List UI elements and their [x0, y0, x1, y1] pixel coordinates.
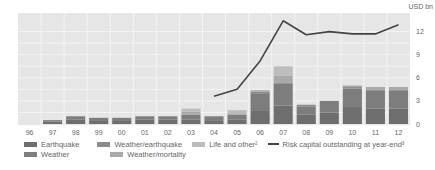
x-tick-label: 00 [118, 129, 126, 136]
bar-segment [274, 83, 293, 105]
bar-segment [274, 66, 293, 75]
x-tick-label: 06 [256, 129, 264, 136]
swatch-icon [24, 142, 37, 147]
bar-segment [135, 119, 154, 124]
legend-weather-mortality: Weather/mortality [110, 150, 186, 159]
y-tick-label: 3 [416, 97, 420, 104]
bar-segment [66, 116, 85, 119]
swatch-icon [192, 142, 205, 147]
bar-segment [389, 87, 408, 89]
x-tick-label: 02 [164, 129, 172, 136]
x-tick-label: 98 [72, 129, 80, 136]
x-tick-label: 12 [395, 129, 403, 136]
bar-segment [320, 101, 339, 113]
unit-label: USD bn [408, 3, 433, 10]
bar-segment [251, 92, 270, 94]
bar-segment [228, 119, 247, 124]
legend-weather-earthquake: Weather/earthquake [97, 140, 182, 149]
bar-segment [112, 118, 131, 120]
x-tick-label: 05 [233, 129, 241, 136]
bar-segment [181, 115, 200, 120]
bar-segment [89, 120, 108, 124]
y-tick-label: 6 [416, 74, 420, 81]
bar-segment [251, 90, 270, 92]
bar-segment [320, 112, 339, 124]
y-tick-label: 0 [416, 121, 420, 128]
legend-earthquake: Earthquake [24, 140, 79, 149]
bar-segment [343, 86, 362, 88]
x-tick-label: 01 [141, 129, 149, 136]
bar-segment [43, 120, 62, 122]
bar-segment [366, 87, 385, 89]
bar-segment [228, 113, 247, 115]
bar-segment [228, 115, 247, 120]
bar-segment [181, 109, 200, 112]
y-tick-label: 12 [416, 28, 424, 35]
bar-segment [343, 89, 362, 107]
bar-segment [89, 118, 108, 120]
bar-segment [251, 93, 270, 110]
x-tick-label: 99 [95, 129, 103, 136]
bar-segment [274, 106, 293, 124]
x-tick-label: 04 [210, 129, 218, 136]
bar-segment [66, 119, 85, 124]
x-tick-label: 96 [26, 129, 34, 136]
bar-segment [389, 89, 408, 91]
bar-segment [274, 75, 293, 83]
bar-segment [389, 109, 408, 124]
bar-segment [181, 119, 200, 124]
x-tick-label: 11 [372, 129, 379, 136]
bar-segment [297, 106, 316, 114]
bar-segment [343, 107, 362, 124]
x-tick-label: 10 [348, 129, 356, 136]
legend-risk-capital: Risk capital outstanding at year-end³ [268, 140, 405, 149]
legend: Earthquake Weather/earthquake Life and o… [24, 139, 414, 159]
legend-weather: Weather [24, 150, 69, 159]
bar-segment [389, 91, 408, 109]
bar-segment [366, 89, 385, 91]
bar-segment [366, 91, 385, 109]
x-tick-label: 03 [187, 129, 195, 136]
bar-segment [228, 110, 247, 113]
bar-segment [158, 116, 177, 119]
bar-segment [297, 115, 316, 124]
line-swatch-icon [268, 143, 279, 145]
y-tick-label: 9 [416, 51, 420, 58]
x-tick-label: 97 [49, 129, 57, 136]
x-tick-label: 09 [325, 129, 333, 136]
bar-segment [297, 105, 316, 107]
bar-segment [112, 120, 131, 124]
bar-segment [43, 122, 62, 124]
bar-segment [343, 87, 362, 89]
bar-segment [204, 116, 223, 120]
x-tick-label: 07 [279, 129, 287, 136]
swatch-icon [24, 152, 37, 157]
bar-segment [181, 112, 200, 115]
bar-segment [251, 110, 270, 124]
bar-segment [204, 120, 223, 124]
bar-segment [158, 119, 177, 124]
bar-segment [366, 109, 385, 124]
legend-life-other: Life and other² [192, 140, 257, 149]
swatch-icon [97, 142, 110, 147]
bar-segment [135, 116, 154, 119]
swatch-icon [110, 152, 123, 157]
x-tick-label: 08 [302, 129, 310, 136]
